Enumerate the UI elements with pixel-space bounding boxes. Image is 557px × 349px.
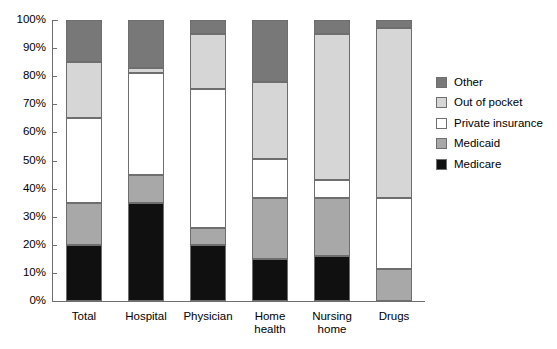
y-tick-label: 0%: [2, 295, 46, 307]
legend-swatch-icon: [436, 97, 447, 108]
bar-segment-private-insurance: [252, 159, 288, 198]
legend-label: Medicaid: [454, 138, 500, 150]
legend-item: Other: [436, 72, 554, 93]
bar-segment-medicaid: [376, 269, 412, 301]
legend-item: Out of pocket: [436, 93, 554, 114]
x-axis-label: Nursing home: [301, 310, 363, 336]
bar-segment-other: [128, 20, 164, 68]
bar-group: [190, 20, 226, 301]
legend-label: Out of pocket: [454, 97, 522, 109]
bar-segment-private-insurance: [190, 89, 226, 228]
bar-segment-other: [314, 20, 350, 34]
bar-segment-medicaid: [66, 203, 102, 245]
bar-group: [376, 20, 412, 301]
legend-item: Medicare: [436, 154, 554, 175]
bar-segment-private-insurance: [314, 180, 350, 198]
y-tick-label: 50%: [2, 155, 46, 167]
legend-item: Medicaid: [436, 134, 554, 155]
bar-group: [252, 20, 288, 301]
y-tick-label: 90%: [2, 42, 46, 54]
bar-segment-private-insurance: [128, 73, 164, 174]
stacked-bar: [376, 20, 412, 301]
x-axis-label: Physician: [177, 310, 239, 323]
stacked-bar-chart: 100%90%80%70%60%50%40%30%20%10%0% TotalH…: [0, 0, 557, 349]
bar-segment-out-of-pocket: [252, 82, 288, 159]
bar-segment-medicaid: [314, 198, 350, 256]
bar-segment-private-insurance: [66, 118, 102, 202]
bar-segment-medicaid: [252, 198, 288, 258]
bar-group: [128, 20, 164, 301]
legend-label: Medicare: [454, 159, 501, 171]
bar-group: [314, 20, 350, 301]
stacked-bar: [314, 20, 350, 301]
bar-group: [66, 20, 102, 301]
stacked-bar: [66, 20, 102, 301]
x-axis-line: [52, 301, 425, 302]
bar-segment-medicare: [314, 256, 350, 301]
stacked-bar: [128, 20, 164, 301]
y-tick-label: 60%: [2, 127, 46, 139]
x-axis-label: Hospital: [115, 310, 177, 323]
bar-segment-private-insurance: [376, 198, 412, 268]
legend-label: Private insurance: [454, 118, 543, 130]
bar-segment-out-of-pocket: [190, 34, 226, 89]
y-tick-label: 40%: [2, 183, 46, 195]
bar-segment-medicare: [66, 245, 102, 301]
bar-segment-medicaid: [128, 175, 164, 203]
bar-segment-medicare: [190, 245, 226, 301]
bar-segment-other: [376, 20, 412, 28]
legend-swatch-icon: [436, 118, 447, 129]
bar-segment-other: [252, 20, 288, 82]
legend-swatch-icon: [436, 159, 447, 170]
y-tick-label: 80%: [2, 70, 46, 82]
legend-swatch-icon: [436, 77, 447, 88]
bar-segment-medicaid: [190, 228, 226, 245]
bar-segment-medicare: [252, 259, 288, 301]
y-tick-label: 10%: [2, 267, 46, 279]
y-tick-label: 100%: [2, 14, 46, 26]
x-axis-label: Total: [53, 310, 115, 323]
y-tick-label: 20%: [2, 239, 46, 251]
stacked-bar: [190, 20, 226, 301]
bar-segment-out-of-pocket: [128, 68, 164, 74]
bar-segment-medicare: [128, 203, 164, 301]
y-axis-labels: 100%90%80%70%60%50%40%30%20%10%0%: [0, 0, 46, 349]
x-axis-label: Home health: [239, 310, 301, 336]
bar-segment-out-of-pocket: [66, 62, 102, 118]
bar-segment-other: [66, 20, 102, 62]
legend-label: Other: [454, 77, 483, 89]
stacked-bar: [252, 20, 288, 301]
legend-swatch-icon: [436, 138, 447, 149]
bar-segment-out-of-pocket: [376, 28, 412, 198]
x-axis-label: Drugs: [363, 310, 425, 323]
plot-area: [53, 20, 425, 301]
bar-segment-out-of-pocket: [314, 34, 350, 180]
y-tick-label: 30%: [2, 211, 46, 223]
y-tick-label: 70%: [2, 99, 46, 111]
bar-segment-other: [190, 20, 226, 34]
legend-item: Private insurance: [436, 113, 554, 134]
chart-legend: OtherOut of pocketPrivate insuranceMedic…: [436, 72, 554, 175]
